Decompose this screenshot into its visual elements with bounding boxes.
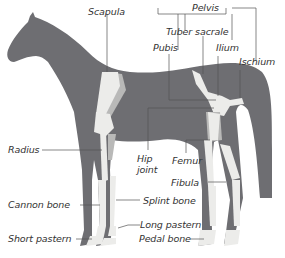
horse-skeleton-diagram: Scapula Pelvis Tuber sacrale Pubis Ilium… (0, 0, 285, 258)
label-hip-joint-line2: joint (137, 165, 157, 175)
label-pubis: Pubis (153, 43, 178, 53)
label-hip-joint-line1: Hip (137, 154, 153, 164)
label-long-pastern: Long pastern (140, 220, 201, 230)
label-pelvis: Pelvis (192, 3, 219, 13)
label-short-pastern: Short pastern (8, 234, 72, 244)
label-ischium: Ischium (239, 57, 275, 67)
label-scapula: Scapula (88, 7, 125, 17)
label-ilium: Ilium (216, 43, 239, 53)
label-splint-bone: Splint bone (143, 196, 196, 206)
label-fibula: Fibula (171, 178, 199, 188)
label-cannon-bone: Cannon bone (8, 200, 70, 210)
label-femur: Femur (172, 156, 202, 166)
label-pedal-bone: Pedal bone (139, 234, 191, 244)
label-radius: Radius (8, 145, 39, 155)
label-tuber-sacrale: Tuber sacrale (166, 27, 229, 37)
